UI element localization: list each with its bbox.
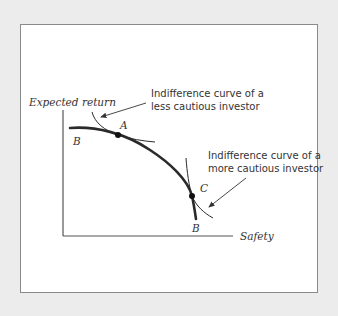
- point-c-label: C: [200, 182, 208, 194]
- x-axis-label: Safety: [240, 230, 274, 242]
- more-cautious-annotation-line1: Indifference curve of a: [208, 150, 321, 162]
- arrow-more-cautious: [209, 178, 246, 207]
- frontier-curve-bb: [70, 128, 196, 219]
- less-cautious-annotation-line1: Indifference curve of a: [151, 88, 264, 100]
- more-cautious-annotation-line2: more cautious investor: [208, 163, 323, 175]
- point-a-label: A: [120, 119, 128, 131]
- frontier-label-bottom: B: [192, 222, 200, 234]
- point-a-marker: [115, 132, 121, 138]
- y-axis-label: Expected return: [29, 96, 116, 108]
- less-cautious-annotation-line2: less cautious investor: [151, 101, 260, 113]
- point-c-marker: [189, 193, 195, 199]
- frontier-label-top: B: [73, 135, 81, 147]
